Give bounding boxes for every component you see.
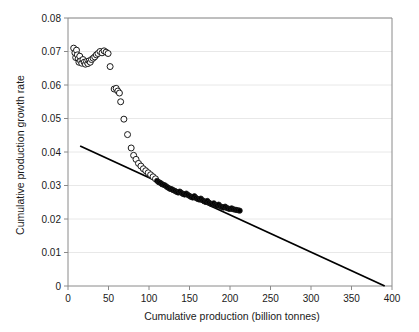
- data-point-open: [121, 116, 127, 122]
- y-tick-label: 0.01: [42, 247, 62, 258]
- y-tick-label: 0.04: [42, 147, 62, 158]
- y-axis-tick-labels: 00.010.020.030.040.050.060.070.08: [42, 13, 62, 292]
- data-point-open: [107, 64, 113, 70]
- x-tick-label: 0: [65, 293, 71, 304]
- grid-lines: [68, 18, 392, 253]
- x-tick-label: 250: [262, 293, 279, 304]
- y-tick-label: 0.08: [42, 13, 62, 24]
- series-solid-circles: [155, 178, 243, 213]
- x-tick-label: 50: [103, 293, 115, 304]
- y-tick-label: 0.05: [42, 113, 62, 124]
- trend-line-segment: [80, 146, 385, 286]
- x-tick-label: 300: [303, 293, 320, 304]
- data-point-open: [105, 51, 111, 57]
- x-tick-label: 350: [343, 293, 360, 304]
- x-tick-label: 400: [384, 293, 401, 304]
- trend-line: [80, 146, 385, 286]
- y-tick-label: 0.03: [42, 180, 62, 191]
- y-axis-ticks: [64, 18, 68, 286]
- y-tick-label: 0.06: [42, 80, 62, 91]
- x-tick-label: 150: [181, 293, 198, 304]
- x-tick-label: 100: [141, 293, 158, 304]
- y-tick-label: 0: [55, 281, 61, 292]
- data-point-solid: [237, 208, 242, 213]
- x-axis-tick-labels: 050100150200250300350400: [65, 293, 401, 304]
- x-axis-title: Cumulative production (billion tonnes): [144, 310, 320, 322]
- chart-figure: 050100150200250300350400 00.010.020.030.…: [0, 0, 419, 332]
- y-tick-label: 0.02: [42, 214, 62, 225]
- data-point-open: [116, 90, 122, 96]
- y-axis-title: Cumulative production growth rate: [14, 75, 26, 235]
- scatter-plot: 050100150200250300350400 00.010.020.030.…: [0, 0, 419, 332]
- data-point-open: [125, 132, 131, 138]
- data-point-open: [128, 145, 134, 151]
- x-axis-ticks: [68, 286, 392, 290]
- data-point-open: [118, 99, 124, 105]
- y-tick-label: 0.07: [42, 46, 62, 57]
- x-tick-label: 200: [222, 293, 239, 304]
